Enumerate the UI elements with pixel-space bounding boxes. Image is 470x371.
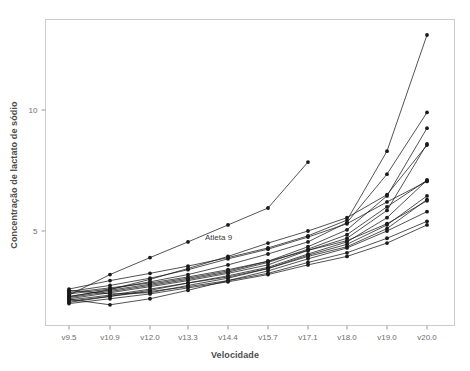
data-point: [108, 273, 112, 277]
x-tick-label-v15-7: v15.7: [258, 333, 278, 342]
data-point: [306, 160, 310, 164]
data-point: [385, 172, 389, 176]
data-point: [226, 223, 230, 227]
data-point: [186, 284, 190, 288]
data-point: [108, 303, 112, 307]
x-tick-label-v17-1: v17.1: [298, 333, 318, 342]
data-point: [108, 297, 112, 301]
data-point: [306, 248, 310, 252]
data-point: [425, 223, 429, 227]
data-point: [306, 263, 310, 267]
annotation-label: Atleta 9: [205, 233, 232, 242]
data-point: [306, 234, 310, 238]
data-point: [148, 271, 152, 275]
data-point: [385, 241, 389, 245]
data-point: [345, 246, 349, 250]
data-point: [425, 219, 429, 223]
data-point: [425, 111, 429, 115]
data-point: [226, 268, 230, 272]
data-point: [345, 233, 349, 237]
data-point: [148, 278, 152, 282]
data-point: [385, 149, 389, 153]
data-point: [67, 297, 71, 301]
data-point: [345, 239, 349, 243]
x-axis-title: Velocidade: [0, 350, 470, 360]
x-tick-label-v19-0: v19.0: [377, 333, 397, 342]
data-point: [425, 178, 429, 182]
data-point: [148, 256, 152, 260]
data-point: [266, 246, 270, 250]
data-point: [266, 269, 270, 273]
data-point: [108, 279, 112, 283]
x-tick-label-v14-4: v14.4: [218, 333, 238, 342]
data-point: [226, 263, 230, 267]
x-tick-label-v18-0: v18.0: [337, 333, 357, 342]
data-point: [306, 257, 310, 261]
data-point: [345, 222, 349, 226]
data-point: [67, 288, 71, 292]
data-point: [306, 229, 310, 233]
data-point: [385, 200, 389, 204]
x-tick-label-v12-0: v12.0: [140, 333, 160, 342]
data-point: [186, 240, 190, 244]
x-tick-label-v20-0: v20.0: [417, 333, 437, 342]
data-point: [345, 228, 349, 232]
data-point: [425, 33, 429, 37]
data-point: [108, 292, 112, 296]
data-point: [186, 275, 190, 279]
data-point: [345, 255, 349, 259]
data-point: [385, 223, 389, 227]
data-point: [425, 199, 429, 203]
data-point: [385, 229, 389, 233]
data-point: [266, 206, 270, 210]
data-point: [148, 297, 152, 301]
data-point: [226, 255, 230, 259]
data-point: [67, 302, 71, 306]
data-point: [186, 267, 190, 271]
x-tick-label-v10-9: v10.9: [100, 333, 120, 342]
x-tick-label-v13-3: v13.3: [178, 333, 198, 342]
data-point: [266, 259, 270, 263]
data-point: [385, 236, 389, 240]
data-point: [425, 210, 429, 214]
data-point: [108, 288, 112, 292]
lactate-velocity-chart: v9.5v10.9v12.0v13.3v14.4v15.7v17.1v18.0v…: [0, 0, 470, 371]
data-point: [266, 241, 270, 245]
data-point: [306, 240, 310, 244]
y-axis-ticks: [42, 110, 46, 231]
x-axis-ticks: [69, 326, 427, 330]
data-point: [345, 242, 349, 246]
data-point: [385, 216, 389, 220]
panel-border: [46, 20, 455, 326]
data-point: [186, 288, 190, 292]
data-point: [148, 281, 152, 285]
data-point: [425, 194, 429, 198]
data-point: [266, 252, 270, 256]
data-point: [425, 143, 429, 147]
data-point: [385, 209, 389, 213]
data-point: [385, 205, 389, 209]
plot-area: [0, 0, 470, 371]
data-point: [425, 126, 429, 130]
data-point: [266, 273, 270, 277]
x-tick-label-v9-5: v9.5: [61, 333, 76, 342]
y-axis-title: Concentração de lactato de sódio: [9, 75, 19, 275]
data-point: [226, 279, 230, 283]
data-point: [385, 193, 389, 197]
data-point: [345, 251, 349, 255]
data-point: [148, 291, 152, 295]
data-point: [306, 253, 310, 257]
data-point: [345, 216, 349, 220]
